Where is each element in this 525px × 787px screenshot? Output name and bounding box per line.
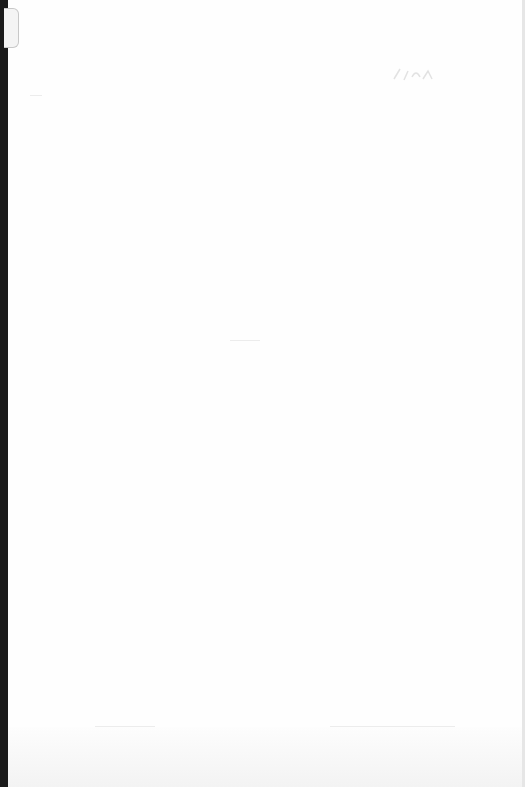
faint-line — [230, 340, 260, 341]
faint-line — [30, 95, 42, 96]
faint-line — [95, 726, 155, 727]
page-tab-edge — [4, 8, 19, 48]
page-bottom-shadow — [8, 727, 523, 787]
faint-line — [330, 726, 455, 727]
blank-page — [8, 0, 523, 785]
handwritten-mark-icon — [390, 65, 440, 85]
